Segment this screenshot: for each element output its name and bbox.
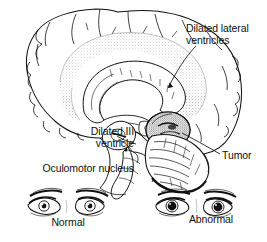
eye-normal-left — [28, 197, 60, 216]
label-line-1: Dilated lateral — [186, 23, 249, 35]
caption-abnormal: Abnormal — [176, 214, 246, 226]
label-tumor: Tumor — [222, 150, 251, 162]
label-line-2: ventricle — [48, 138, 134, 150]
figure-canvas: Dilated lateral ventricles Dilated III v… — [0, 0, 267, 242]
label-oculomotor-nucleus: Oculomotor nucleus — [4, 163, 134, 175]
eyes-normal — [28, 188, 108, 216]
eye-normal-right — [76, 197, 105, 216]
label-line-1: Dilated III — [48, 126, 134, 138]
label-line-2: ventricles — [186, 35, 249, 47]
label-dilated-lateral-ventricles: Dilated lateral ventricles — [186, 23, 249, 46]
caption-normal: Normal — [38, 217, 98, 229]
label-dilated-third-ventricle: Dilated III ventricle — [48, 126, 134, 149]
